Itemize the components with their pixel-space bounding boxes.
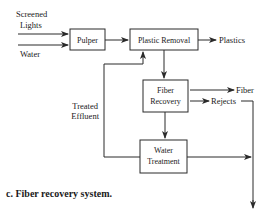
pulper-node: Pulper	[70, 29, 105, 50]
fiber-recovery-diagram: Screened Lights Water Pulper Plastic Rem…	[0, 0, 270, 213]
input-screened-lights: Screened Lights	[16, 9, 68, 34]
effluent-label: Effluent	[71, 111, 99, 121]
fiber-recovery-label-1: Fiber	[157, 86, 174, 95]
fiber-label: Fiber	[236, 85, 254, 95]
fiber-recovery-box	[143, 80, 188, 112]
lights-label: Lights	[20, 20, 42, 30]
plastic-removal-label: Plastic Removal	[138, 36, 191, 45]
plastics-label: Plastics	[219, 35, 245, 45]
treated-label: Treated	[72, 101, 98, 111]
water-treatment-label-2: Treatment	[147, 157, 180, 166]
water-treatment-node: Water Treatment	[140, 140, 187, 173]
fiber-recovery-label-2: Recovery	[150, 97, 181, 106]
fiber-recovery-node: Fiber Recovery	[143, 80, 188, 112]
input-water: Water	[18, 45, 68, 59]
rejects-discharge-line	[241, 101, 253, 205]
treated-effluent-line	[104, 64, 143, 157]
water-treatment-label-1: Water	[154, 146, 173, 155]
figure-caption: c. Fiber recovery system.	[6, 188, 112, 199]
pulper-label: Pulper	[77, 36, 98, 45]
plastic-removal-node: Plastic Removal	[130, 29, 198, 50]
water-label: Water	[20, 49, 40, 59]
screened-label: Screened	[16, 9, 48, 19]
rejects-label: Rejects	[211, 96, 236, 106]
